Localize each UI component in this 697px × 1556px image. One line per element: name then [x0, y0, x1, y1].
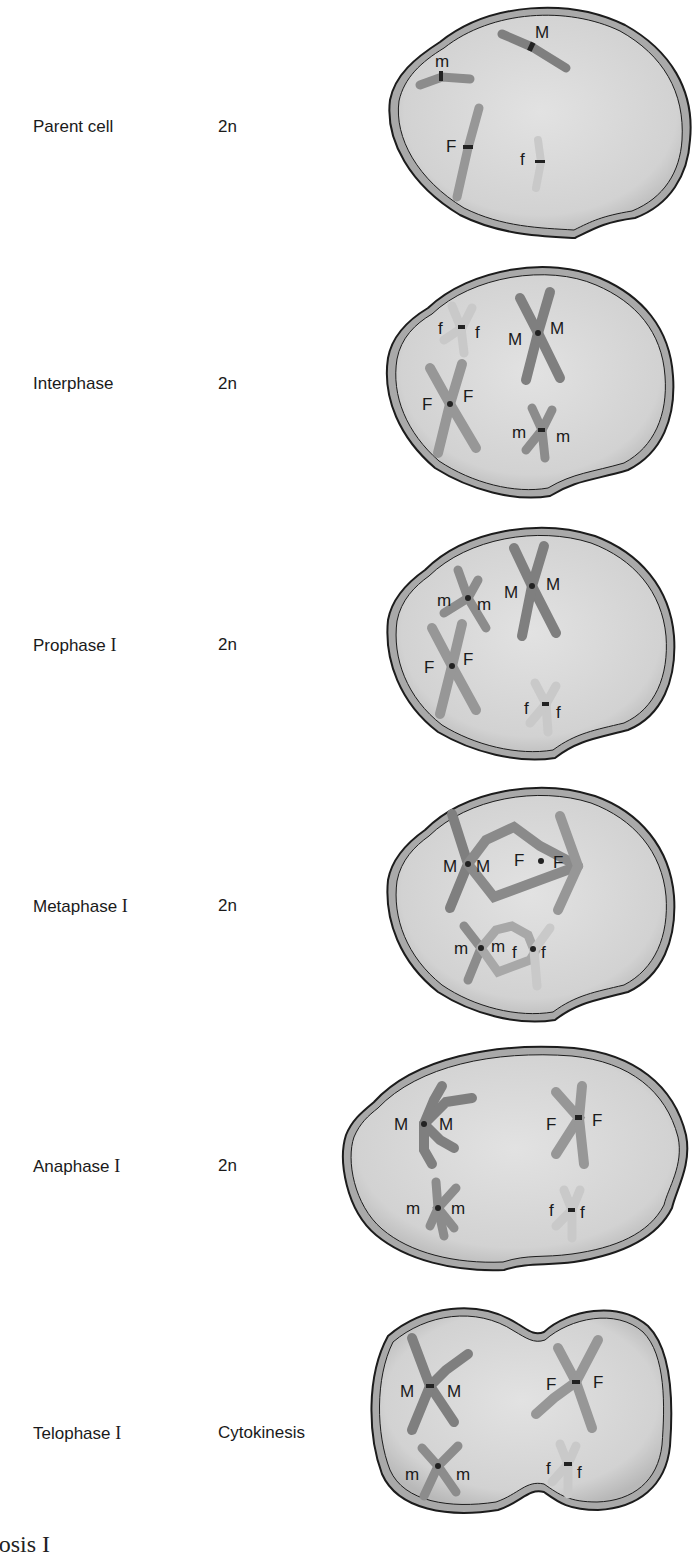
svg-text:f: f — [512, 943, 517, 962]
ploidy-label: Cytokinesis — [218, 1423, 305, 1443]
svg-text:F: F — [424, 658, 434, 677]
svg-text:F: F — [553, 853, 563, 872]
telophase-cell-diagram: M M F F m m f f — [368, 1296, 697, 1526]
svg-text:M: M — [394, 1115, 408, 1134]
svg-text:f: f — [546, 1459, 551, 1478]
svg-text:F: F — [546, 1115, 556, 1134]
parent-cell-diagram: M m F f — [380, 0, 697, 245]
svg-text:m: m — [456, 1465, 470, 1484]
ploidy-label: 2n — [218, 374, 237, 394]
svg-text:M: M — [546, 575, 560, 594]
svg-text:f: f — [520, 150, 525, 169]
stage-name: Prophase — [33, 636, 106, 655]
anaphase-cell-diagram: M M F F m m f f — [334, 1040, 697, 1272]
svg-text:m: m — [437, 591, 451, 610]
svg-text:M: M — [504, 583, 518, 602]
metaphase-cell-diagram: M M F F m m f f — [380, 780, 697, 1030]
stage-name: Anaphase — [33, 1157, 110, 1176]
ploidy-label: 2n — [218, 896, 237, 916]
stage-label: Prophase I — [33, 635, 117, 656]
ploidy-label: 2n — [218, 117, 237, 137]
prophase-cell-diagram: m m M M F F f f — [380, 518, 697, 773]
stage-label: Telophase I — [33, 1423, 121, 1444]
svg-text:m: m — [477, 595, 491, 614]
svg-text:m: m — [451, 1199, 465, 1218]
svg-text:m: m — [406, 1199, 420, 1218]
svg-text:f: f — [541, 943, 546, 962]
svg-text:f: f — [438, 319, 443, 338]
stage-label: Interphase — [33, 374, 113, 394]
svg-text:F: F — [463, 387, 473, 406]
svg-text:M: M — [443, 857, 457, 876]
svg-text:F: F — [546, 1375, 556, 1394]
stage-roman: I — [115, 1423, 121, 1443]
svg-text:M: M — [508, 330, 522, 349]
svg-text:f: f — [475, 323, 480, 342]
svg-text:M: M — [476, 857, 490, 876]
stage-roman: I — [122, 896, 128, 916]
ploidy-label: 2n — [218, 1156, 237, 1176]
figure-caption-partial: iosis I — [0, 1531, 50, 1556]
svg-text:m: m — [556, 427, 570, 446]
svg-text:m: m — [454, 939, 468, 958]
svg-text:f: f — [577, 1463, 582, 1482]
svg-text:M: M — [447, 1382, 461, 1401]
svg-text:m: m — [491, 937, 505, 956]
stage-label: Anaphase I — [33, 1156, 120, 1177]
svg-text:F: F — [446, 137, 456, 156]
svg-text:F: F — [593, 1373, 603, 1392]
svg-text:F: F — [514, 851, 524, 870]
svg-text:M: M — [400, 1382, 414, 1401]
interphase-cell-diagram: f f M M F F m m — [380, 258, 697, 508]
svg-text:M: M — [550, 319, 564, 338]
ploidy-label: 2n — [218, 635, 237, 655]
stage-roman: I — [114, 1156, 120, 1176]
svg-text:M: M — [535, 23, 549, 42]
stage-name: Telophase — [33, 1424, 111, 1443]
stage-name: Metaphase — [33, 897, 117, 916]
svg-text:m: m — [435, 52, 449, 71]
svg-text:F: F — [422, 395, 432, 414]
svg-text:m: m — [405, 1465, 419, 1484]
svg-text:M: M — [439, 1115, 453, 1134]
svg-text:m: m — [512, 423, 526, 442]
stage-roman: I — [111, 635, 117, 655]
stage-label: Parent cell — [33, 117, 113, 137]
stage-label: Metaphase I — [33, 896, 128, 917]
svg-text:f: f — [549, 1201, 554, 1220]
svg-text:F: F — [463, 650, 473, 669]
svg-text:f: f — [556, 703, 561, 722]
svg-text:f: f — [580, 1203, 585, 1222]
svg-text:f: f — [524, 699, 529, 718]
svg-text:F: F — [592, 1111, 602, 1130]
